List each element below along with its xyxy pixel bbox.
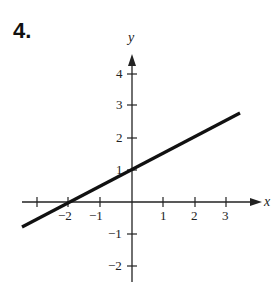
x-tick-label: −2 xyxy=(58,208,72,223)
y-tick-label: −2 xyxy=(108,258,122,273)
y-axis-arrow-icon xyxy=(128,54,136,66)
y-tick-label: 2 xyxy=(116,130,123,145)
x-tick-label: 2 xyxy=(191,208,198,223)
y-tick-label: −1 xyxy=(108,226,122,241)
x-axis-label: x xyxy=(263,194,271,209)
x-tick-label: 3 xyxy=(222,208,229,223)
x-axis-arrow-icon xyxy=(250,198,262,206)
graph: x y −2 −1 1 2 3 4 3 2 1 −1 −2 xyxy=(0,0,277,300)
y-tick-label: 4 xyxy=(116,66,123,81)
x-tick-label: 1 xyxy=(160,208,167,223)
y-tick-label: 3 xyxy=(116,97,123,112)
x-tick-label: −1 xyxy=(89,208,103,223)
data-line xyxy=(22,113,240,227)
y-axis-label: y xyxy=(126,30,135,45)
